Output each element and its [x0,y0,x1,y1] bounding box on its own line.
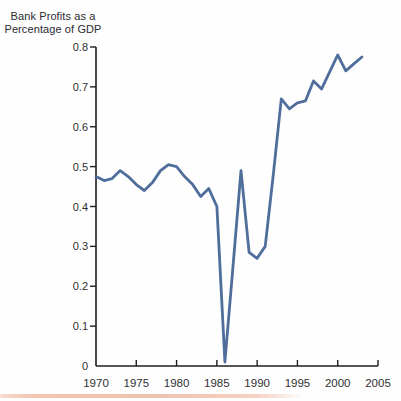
x-tick-label: 1975 [123,377,149,389]
figure-canvas: Bank Profits as a Percentage of GDP 00.1… [0,0,401,401]
x-tick-label: 2005 [365,377,391,389]
chart-title-line1: Bank Profits as a [0,10,106,23]
y-tick-label: 0.7 [73,81,88,93]
y-tick-label: 0.1 [73,320,88,332]
profits-line-chart: 00.10.20.30.40.50.60.70.8197019751980198… [0,0,401,401]
y-tick-label: 0.6 [73,121,88,133]
chart-title-line2: Percentage of GDP [0,23,106,36]
y-tick-label: 0 [82,360,88,372]
y-tick-label: 0.3 [73,240,88,252]
x-tick-label: 1980 [164,377,190,389]
y-tick-label: 0.5 [73,161,88,173]
scan-artifact-streak [0,394,303,398]
x-tick-label: 1995 [285,377,311,389]
x-tick-label: 1990 [244,377,270,389]
x-tick-label: 2000 [325,377,351,389]
bank-profits-series-line [96,55,362,362]
y-tick-label: 0.4 [73,201,88,213]
chart-title: Bank Profits as a Percentage of GDP [0,10,106,35]
y-tick-label: 0.8 [73,41,88,53]
y-tick-label: 0.2 [73,280,88,292]
x-tick-label: 1985 [204,377,230,389]
x-tick-label: 1970 [83,377,109,389]
